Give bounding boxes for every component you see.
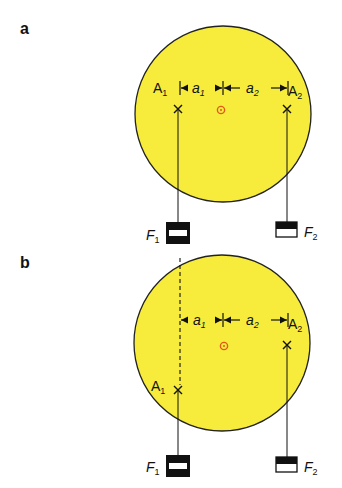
force-2-label: F2 [304,224,318,242]
weight-1-icon [166,222,190,244]
disk [135,26,311,202]
panel-b: b a1 a2 A2 A1 F1 F2 [20,254,318,477]
panel-a: a A1 a1 a2 A2 [20,20,318,245]
force-1-label: F1 [146,227,160,245]
lever-disk-diagram: a A1 a1 a2 A2 [0,0,342,488]
force-1-label: F1 [146,459,160,477]
weight-1-icon [166,455,190,477]
panel-label: b [20,254,30,271]
weight-2-icon [276,222,297,237]
force-2-label: F2 [304,459,318,477]
weight-2-icon [276,457,297,472]
panel-label: a [20,20,29,37]
